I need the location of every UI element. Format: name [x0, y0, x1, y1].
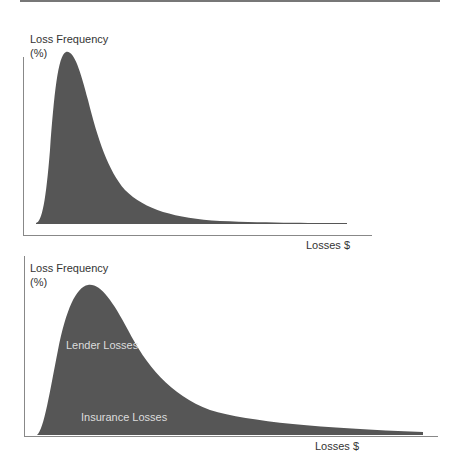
- chart2-annotation-lender: Lender Losses: [66, 339, 139, 351]
- chart2-annotation-insurance: Insurance Losses: [81, 411, 168, 423]
- chart1-area: [36, 52, 347, 224]
- charts-svg: Lender Losses Insurance Losses: [0, 0, 457, 462]
